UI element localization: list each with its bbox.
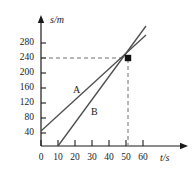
series-label-a: A [73,85,80,95]
series-line-b [58,26,146,146]
x-tick-label-60: 60 [134,153,152,163]
intersection-point-marker [125,55,131,61]
y-tick-label-200: 200 [8,68,34,78]
x-tick-label-50: 50 [117,153,135,163]
y-tick-label-40: 40 [8,128,34,138]
y-tick-label-120: 120 [8,98,34,108]
x-tick-label-10: 10 [49,153,67,163]
y-tick-label-240: 240 [8,53,34,63]
displacement-time-graph-figure: s/m t/s 280 240 200 160 120 80 40 0 10 2… [0,0,196,174]
x-axis-arrow-icon [180,143,188,149]
y-axis-arrow-icon [38,15,44,23]
y-tick-label-280: 280 [8,38,34,48]
x-axis-title: t/s [160,152,169,163]
x-tick-label-30: 30 [83,153,101,163]
x-tick-label-20: 20 [66,153,84,163]
y-tick-label-80: 80 [8,113,34,123]
series-label-b: B [91,107,98,117]
x-tick-label-0: 0 [32,153,50,163]
y-axis-ticks [41,43,46,133]
x-tick-label-40: 40 [100,153,118,163]
y-tick-label-160: 160 [8,83,34,93]
y-axis-title: s/m [50,14,64,25]
